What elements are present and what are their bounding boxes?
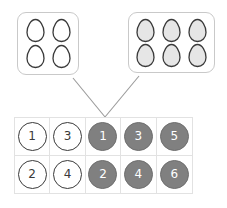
- egg-icon: [51, 18, 72, 43]
- number-grid-cell[interactable]: 2: [15, 156, 50, 194]
- egg-icon: [135, 18, 156, 43]
- number-token-gray-6[interactable]: 6: [160, 160, 189, 189]
- number-grid-cell[interactable]: 1: [15, 118, 50, 156]
- number-token-gray-2[interactable]: 2: [88, 160, 117, 189]
- number-token-white-2[interactable]: 2: [18, 160, 47, 189]
- number-grid-cell[interactable]: 4: [121, 156, 156, 194]
- egg-carton-right: [128, 12, 215, 73]
- egg-icon: [51, 44, 72, 69]
- connector-right-carton: [105, 76, 139, 117]
- number-token-gray-5[interactable]: 5: [160, 122, 189, 151]
- egg-icon: [25, 44, 46, 69]
- number-token-gray-1[interactable]: 1: [88, 122, 117, 151]
- egg-icon: [135, 43, 156, 68]
- egg-icon: [25, 18, 46, 43]
- egg-icon: [187, 18, 208, 43]
- egg-carton-left: [17, 12, 79, 75]
- egg-carton-right-eggs: [129, 13, 214, 72]
- number-grid: 1313524246: [14, 117, 193, 194]
- connector-left-carton: [73, 78, 105, 117]
- number-token-white-3[interactable]: 3: [53, 122, 82, 151]
- number-grid-cell[interactable]: 4: [50, 156, 85, 194]
- number-grid-cell[interactable]: 3: [121, 118, 156, 156]
- number-grid-cell[interactable]: 5: [157, 118, 192, 156]
- number-grid-cell[interactable]: 2: [86, 156, 121, 194]
- number-grid-cell[interactable]: 6: [157, 156, 192, 194]
- egg-icon: [187, 43, 208, 68]
- number-token-gray-3[interactable]: 3: [124, 122, 153, 151]
- egg-icon: [161, 18, 182, 43]
- egg-carton-left-eggs: [18, 13, 78, 74]
- diagram-canvas: 1313524246: [0, 0, 227, 208]
- egg-icon: [161, 43, 182, 68]
- number-grid-cell[interactable]: 1: [86, 118, 121, 156]
- number-grid-cell[interactable]: 3: [50, 118, 85, 156]
- number-token-white-4[interactable]: 4: [53, 160, 82, 189]
- number-token-white-1[interactable]: 1: [18, 122, 47, 151]
- number-token-gray-4[interactable]: 4: [124, 160, 153, 189]
